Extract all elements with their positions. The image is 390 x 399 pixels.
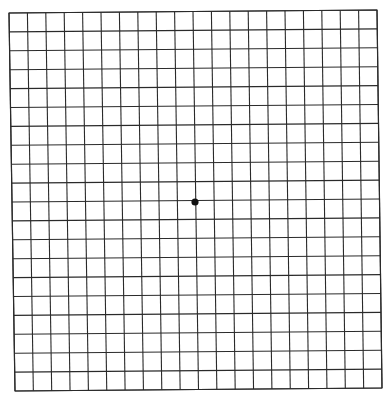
fixation-dot [191, 198, 198, 205]
amsler-grid [0, 0, 390, 399]
